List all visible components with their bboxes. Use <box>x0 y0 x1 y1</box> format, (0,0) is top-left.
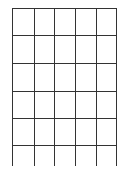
grid-diagram <box>0 0 136 170</box>
